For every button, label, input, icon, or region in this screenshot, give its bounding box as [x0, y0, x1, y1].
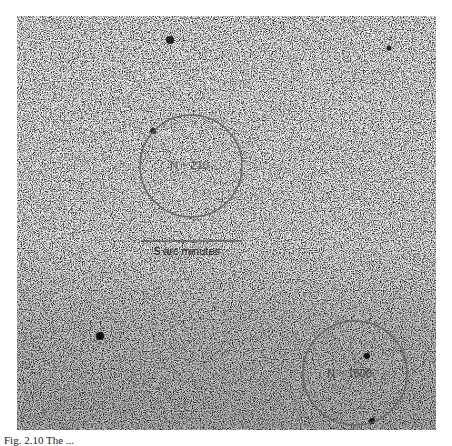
sparse-region-count-label: N ~ 210 [170, 159, 209, 171]
figure-caption: Fig. 2.10 The ... [4, 434, 74, 446]
dense-region-count-label: N ~ 1600 [327, 367, 372, 379]
annotation-overlay [0, 0, 452, 446]
scale-bar-label: 5 arc minutes [154, 245, 220, 257]
